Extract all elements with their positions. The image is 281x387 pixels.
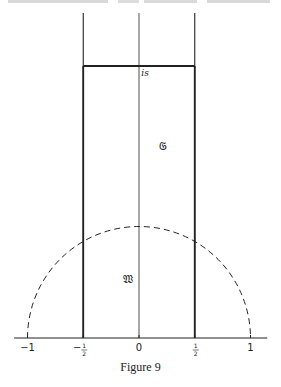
x-tick-label: −1 xyxy=(20,342,35,353)
x-tick-label-denominator: 2 xyxy=(194,350,198,357)
x-tick-label: 0 xyxy=(136,342,142,353)
x-tick-label-numerator: 1 xyxy=(194,342,198,349)
x-tick-label-sign: − xyxy=(73,342,81,353)
figure-caption: Figure 9 xyxy=(0,360,281,375)
x-tick-label-numerator: 1 xyxy=(82,342,86,349)
modular-region-diagram: is 𝔊 𝔚 −1−120121 xyxy=(0,0,281,387)
label-lower-region: 𝔚 xyxy=(123,273,133,286)
label-top-point-is: is xyxy=(141,68,149,78)
label-upper-region: 𝔊 xyxy=(159,140,167,153)
x-tick-label: 1 xyxy=(247,342,253,353)
x-tick-label-denominator: 2 xyxy=(82,350,86,357)
